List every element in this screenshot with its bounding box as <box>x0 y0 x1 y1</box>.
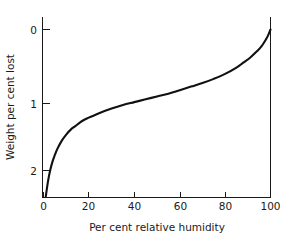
x-tick-labels: 0 20 40 60 80 100 <box>40 200 280 212</box>
y-tick-label-0: 0 <box>30 24 37 36</box>
x-tick-label-0: 0 <box>40 200 47 212</box>
x-tick-label-20: 20 <box>82 200 95 212</box>
x-axis-title: Per cent relative humidity <box>89 221 225 233</box>
y-tick-label-1: 1 <box>30 98 37 110</box>
x-tick-label-60: 60 <box>174 200 187 212</box>
x-tick-marks <box>44 192 271 198</box>
y-axis-title: Weight per cent lost <box>4 54 16 160</box>
y-tick-labels: 0 1 2 <box>30 24 37 177</box>
data-series-line <box>46 30 271 197</box>
x-tick-label-80: 80 <box>219 200 232 212</box>
x-tick-label-40: 40 <box>128 200 141 212</box>
line-chart: 0 1 2 0 20 40 60 80 100 Per cent relativ… <box>0 0 291 244</box>
y-tick-label-2: 2 <box>30 165 37 177</box>
y-tick-marks <box>43 30 50 171</box>
chart-figure: 0 1 2 0 20 40 60 80 100 Per cent relativ… <box>0 0 291 244</box>
x-tick-label-100: 100 <box>260 200 280 212</box>
axis-frame <box>43 17 271 198</box>
